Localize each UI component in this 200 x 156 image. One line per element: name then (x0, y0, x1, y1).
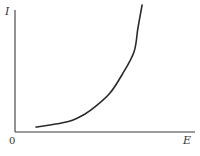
origin-label: 0 (9, 135, 15, 146)
x-axis-label: E (182, 134, 191, 147)
chart: I 0 E (0, 0, 200, 156)
series-line-i-of-e (36, 5, 142, 127)
series-points (36, 5, 142, 127)
y-axis-label: I (4, 5, 10, 18)
